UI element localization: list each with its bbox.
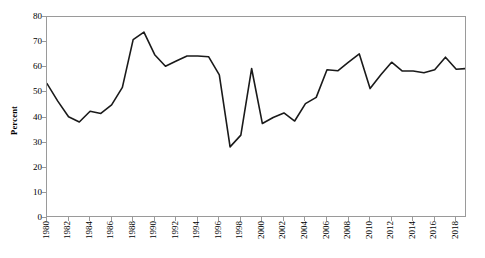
y-axis-tick-mark	[42, 142, 46, 143]
y-axis-tick-mark	[42, 16, 46, 17]
y-axis-tick-label: 10	[33, 187, 42, 196]
y-axis-tick-mark	[42, 91, 46, 92]
x-axis-tick-label: 2018	[451, 221, 460, 239]
x-axis-tick-label: 2000	[257, 221, 266, 239]
y-axis-title: Percent	[5, 90, 23, 150]
y-axis-tick-label: 60	[33, 62, 42, 71]
x-axis-tick-label: 1986	[106, 221, 115, 239]
x-axis-tick-label: 2004	[300, 221, 309, 239]
chart-figure: Percent 01020304050607080 19801982198419…	[0, 0, 485, 258]
y-axis-tick-mark	[42, 66, 46, 67]
x-axis-tick-label: 1988	[128, 221, 137, 239]
y-axis-tick-label-group: 01020304050607080	[22, 16, 42, 217]
x-axis-tick-label: 1990	[149, 221, 158, 239]
y-axis-tick-label: 80	[33, 12, 42, 21]
x-axis-tick-label: 1984	[85, 221, 94, 239]
y-axis-tick-label: 40	[33, 112, 42, 121]
x-axis-tick-label: 2010	[365, 221, 374, 239]
x-axis-tick-label: 1994	[192, 221, 201, 239]
line-series-svg	[47, 17, 466, 217]
x-axis-tick-label: 2014	[408, 221, 417, 239]
y-axis-tick-label: 30	[33, 137, 42, 146]
y-axis-tick-label: 70	[33, 37, 42, 46]
y-axis-tick-mark	[42, 192, 46, 193]
x-axis-tick-label: 2002	[278, 221, 287, 239]
x-axis-tick-label-group: 1980198219841986198819901992199419961998…	[46, 221, 466, 255]
x-axis-tick-label: 1996	[214, 221, 223, 239]
x-axis-tick-label: 1980	[42, 221, 51, 239]
plot-area	[46, 16, 466, 217]
x-axis-tick-label: 1992	[171, 221, 180, 239]
y-axis-tick-mark	[42, 217, 46, 218]
x-axis-tick-label: 1982	[63, 221, 72, 239]
y-axis-tick-label: 50	[33, 87, 42, 96]
x-axis-tick-label: 2016	[429, 221, 438, 239]
x-axis-tick-label: 2012	[386, 221, 395, 239]
x-axis-tick-label: 2006	[322, 221, 331, 239]
data-line-percent	[47, 32, 466, 147]
y-axis-tick-mark	[42, 167, 46, 168]
x-axis-tick-label: 2008	[343, 221, 352, 239]
x-axis-tick-label: 1998	[235, 221, 244, 239]
y-axis-tick-mark	[42, 41, 46, 42]
y-axis-tick-mark	[42, 117, 46, 118]
y-axis-tick-label: 20	[33, 162, 42, 171]
